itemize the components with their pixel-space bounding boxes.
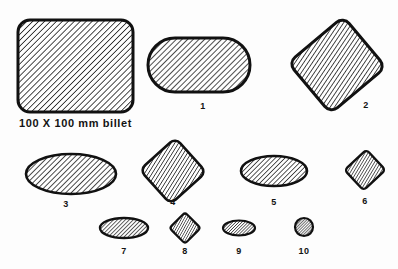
billet-caption: 100 X 100 mm billet [19,117,132,129]
diagram-canvas: 100 X 100 mm billet12345678910 [0,0,398,269]
pass-shape-6 [344,150,385,191]
pass-label-10: 10 [299,246,310,256]
pass-shape-7 [100,218,148,238]
pass-shape-3 [26,154,116,194]
rolling-pass-diagram: 100 X 100 mm billet12345678910 [0,0,398,269]
shapes-layer [18,17,386,244]
pass-shape-1 [148,38,250,92]
pass-label-5: 5 [271,197,276,207]
pass-label-7: 7 [121,246,126,256]
pass-label-9: 9 [236,246,241,256]
billet-shape [18,20,133,112]
pass-shape-9 [223,221,255,236]
pass-shape-5 [241,156,307,186]
pass-label-3: 3 [63,199,68,209]
pass-label-1: 1 [200,101,205,111]
pass-shape-8 [169,212,200,243]
pass-shape-10 [295,218,313,236]
pass-label-4: 4 [170,197,175,207]
pass-label-8: 8 [182,246,187,256]
pass-label-2: 2 [363,100,368,110]
pass-shape-2 [288,17,386,114]
pass-label-6: 6 [362,196,367,206]
pass-shape-4 [140,138,206,204]
